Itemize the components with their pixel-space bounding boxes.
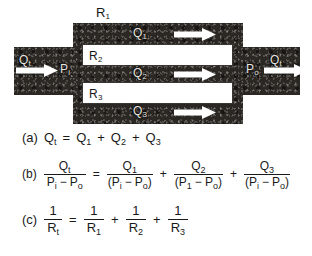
channel-r3: R3 bbox=[82, 82, 233, 104]
right-arrow-icon-outlet bbox=[264, 64, 308, 77]
numerator: 1 bbox=[87, 204, 100, 219]
block-label-r1: R1 bbox=[96, 6, 110, 19]
plus-sign: + bbox=[132, 130, 140, 145]
right-arrow-icon-q2 bbox=[174, 68, 216, 81]
denominator: R3 bbox=[168, 219, 188, 235]
channel-label-r2: R2 bbox=[89, 50, 103, 62]
inlet-pressure-label: Pi bbox=[60, 63, 70, 75]
right-arrow-icon-inlet bbox=[16, 64, 58, 77]
flow-label-q3: Q3 bbox=[133, 105, 147, 117]
equation-a-term-3: Q3 bbox=[146, 130, 161, 145]
equation-a-tag: (a) bbox=[22, 130, 38, 145]
plus-sign: + bbox=[160, 167, 167, 181]
equation-b-lhs-fraction: Qt Pi−Po bbox=[44, 160, 86, 188]
equation-c-term-2: 1 R2 bbox=[126, 204, 146, 234]
equation-list: (a) Qt = Q1 + Q2 + Q3 (b) Qt Pi−Po = bbox=[0, 126, 312, 256]
flow-label-q1: Q1 bbox=[133, 27, 147, 39]
denominator: Rt bbox=[44, 219, 62, 235]
channel-r2: R2 bbox=[82, 44, 233, 66]
equation-b: (b) Qt Pi−Po = Q1 (Pi−Po) + Q2 (P1−Po bbox=[22, 160, 292, 188]
numerator: 1 bbox=[171, 204, 184, 219]
equation-b-term-1: Q1 (Pi−Po) bbox=[107, 160, 153, 188]
numerator: 1 bbox=[129, 204, 142, 219]
equation-a-term-1: Q1 bbox=[76, 130, 91, 145]
denominator: (Pi−Po) bbox=[244, 174, 290, 189]
equation-c-tag: (c) bbox=[22, 212, 37, 227]
right-arrow-icon-q3 bbox=[174, 106, 216, 119]
channel-label-r3: R3 bbox=[89, 88, 103, 100]
equation-c-lhs-fraction: 1 Rt bbox=[44, 204, 62, 234]
equation-b-term-3: Q3 (Pi−Po) bbox=[244, 160, 290, 188]
plus-sign: + bbox=[230, 167, 237, 181]
right-arrow-icon-q1 bbox=[174, 28, 216, 41]
plus-sign: + bbox=[111, 212, 119, 227]
numerator: 1 bbox=[47, 204, 60, 219]
numerator: Q1 bbox=[122, 160, 138, 174]
equation-c: (c) 1 Rt = 1 R1 + 1 R2 + 1 R3 bbox=[22, 204, 190, 234]
equation-b-tag: (b) bbox=[22, 167, 37, 181]
resistance-block bbox=[73, 23, 243, 124]
numerator: Q3 bbox=[259, 160, 275, 174]
parallel-resistance-diagram: R1 R2 R3 Q1 Q2 Q3 Qt bbox=[0, 0, 312, 130]
plus-sign: + bbox=[97, 130, 105, 145]
equals-sign: = bbox=[93, 167, 100, 181]
equals-sign: = bbox=[63, 130, 71, 145]
equation-a-term-2: Q2 bbox=[111, 130, 126, 145]
equation-a-lhs: Qt bbox=[44, 130, 57, 145]
equation-c-term-3: 1 R3 bbox=[168, 204, 188, 234]
denominator: (P1−Po) bbox=[174, 174, 223, 189]
denominator: R1 bbox=[84, 219, 104, 235]
denominator: R2 bbox=[126, 219, 146, 235]
numerator: Q2 bbox=[190, 160, 206, 174]
equation-c-term-1: 1 R1 bbox=[84, 204, 104, 234]
flow-label-q2: Q2 bbox=[133, 67, 147, 79]
equation-b-term-2: Q2 (P1−Po) bbox=[174, 160, 223, 188]
equation-a: (a) Qt = Q1 + Q2 + Q3 bbox=[22, 130, 162, 145]
plus-sign: + bbox=[153, 212, 161, 227]
outlet-pressure-label: Po bbox=[246, 63, 259, 75]
denominator: Pi−Po bbox=[44, 174, 86, 189]
denominator: (Pi−Po) bbox=[107, 174, 153, 189]
numerator: Qt bbox=[56, 160, 74, 174]
equals-sign: = bbox=[69, 212, 77, 227]
